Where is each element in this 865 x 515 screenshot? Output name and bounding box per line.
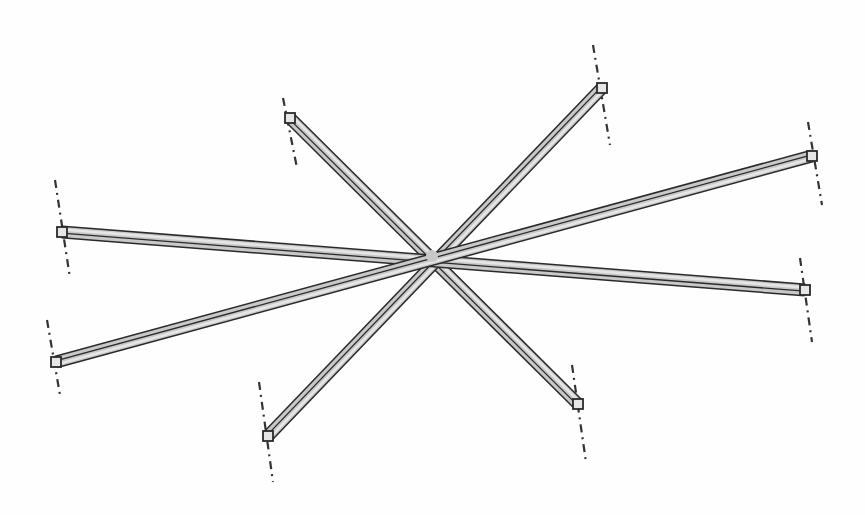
center-joint bbox=[426, 250, 438, 262]
diagram-canvas bbox=[0, 0, 865, 515]
beam-end-cap bbox=[57, 227, 67, 237]
beam-diagram bbox=[0, 0, 865, 515]
beam-end-cap bbox=[807, 151, 817, 161]
beams bbox=[51, 83, 817, 441]
beam-end-cap bbox=[800, 285, 810, 295]
axis-a2 bbox=[572, 365, 586, 462]
beam-end-cap bbox=[573, 399, 583, 409]
beam-end-cap bbox=[285, 113, 295, 123]
beam-end-cap bbox=[51, 357, 61, 367]
beam-end-cap bbox=[263, 431, 273, 441]
beam-end-cap bbox=[597, 83, 607, 93]
axis-d1 bbox=[808, 122, 822, 205]
axis-c2 bbox=[800, 258, 812, 342]
axis-a1 bbox=[283, 98, 297, 168]
